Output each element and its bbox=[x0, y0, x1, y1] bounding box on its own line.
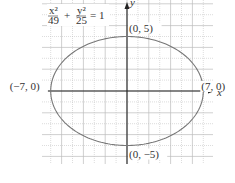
y-axis-arrow bbox=[125, 2, 130, 9]
point-label: (0, 5) bbox=[129, 22, 153, 35]
x-axis-label: x bbox=[216, 86, 222, 98]
y-axis-label: y bbox=[129, 0, 135, 8]
equation-x-denominator: 49 bbox=[48, 14, 60, 26]
ellipse-chart: (−7, 0)(7, 0)(0, 5)(0, −5) x y x² 49 + y… bbox=[0, 0, 235, 183]
equation-plus: + bbox=[64, 9, 70, 21]
equation-y-denominator: 25 bbox=[76, 14, 88, 26]
point-label: (−7, 0) bbox=[10, 80, 40, 93]
equation: x² 49 + y² 25 = 1 bbox=[47, 4, 109, 26]
equation-rhs: = 1 bbox=[90, 9, 104, 21]
point-label: (0, −5) bbox=[129, 148, 159, 161]
